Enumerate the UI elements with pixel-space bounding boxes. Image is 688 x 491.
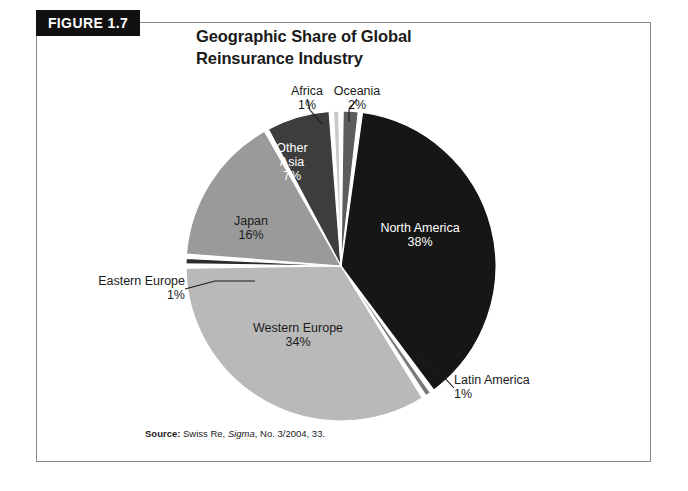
figure-number-tab: FIGURE 1.7 <box>36 10 140 36</box>
chart-title-line-1: Geographic Share of Global <box>196 26 496 48</box>
figure-number-label: FIGURE 1.7 <box>48 15 128 31</box>
source-publication: Sigma <box>228 428 255 439</box>
chart-title-line-2: Reinsurance Industry <box>196 48 496 70</box>
figure-frame <box>36 22 651 462</box>
source-label: Source: <box>145 428 180 439</box>
source-text-before: Swiss Re, <box>180 428 228 439</box>
source-text-after: , No. 3/2004, 33. <box>255 428 325 439</box>
source-note: Source: Swiss Re, Sigma, No. 3/2004, 33. <box>145 428 325 439</box>
chart-title: Geographic Share of Global Reinsurance I… <box>196 26 496 70</box>
